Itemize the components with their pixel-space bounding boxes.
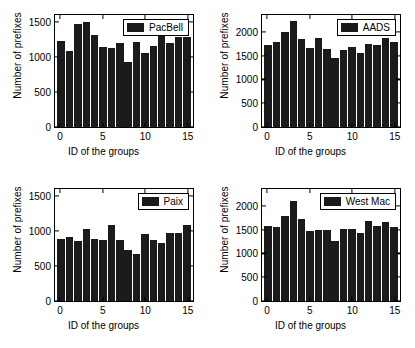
y-tick-mark	[55, 91, 59, 92]
bar	[99, 47, 107, 127]
bar	[298, 219, 306, 301]
bar	[91, 35, 99, 127]
x-axis-label: ID of the groups	[0, 146, 207, 157]
y-tick-label: 1000	[236, 248, 258, 259]
y-tick-mark	[55, 21, 59, 22]
bar	[166, 43, 174, 127]
bar	[331, 241, 339, 301]
y-tick-label: 1000	[236, 74, 258, 85]
x-tick-mark	[145, 15, 146, 19]
y-tick-label: 1500	[29, 191, 51, 202]
y-tick-mark	[396, 277, 400, 278]
y-tick-mark	[262, 79, 266, 80]
y-tick-mark	[396, 126, 400, 127]
bar	[273, 42, 281, 127]
bar	[166, 233, 174, 301]
y-tick-mark	[396, 253, 400, 254]
bar	[74, 24, 82, 127]
x-tick-label: 5	[307, 131, 313, 142]
y-tick-mark	[189, 300, 193, 301]
x-tick-mark	[145, 123, 146, 127]
bar	[306, 231, 314, 301]
legend: West Mac	[320, 193, 396, 210]
y-tick-mark	[396, 55, 400, 56]
x-axis-label: ID of the groups	[207, 146, 414, 157]
plot-area: West Mac 0500100015002000051015	[261, 188, 401, 302]
y-tick-mark	[262, 277, 266, 278]
x-tick-mark	[102, 123, 103, 127]
y-axis-label: Number of prefixes	[12, 175, 23, 285]
y-tick-mark	[55, 126, 59, 127]
x-tick-mark	[394, 123, 395, 127]
bar	[323, 49, 331, 127]
y-tick-label: 0	[45, 296, 51, 307]
bar	[183, 225, 191, 301]
bar	[83, 229, 91, 301]
y-tick-mark	[262, 103, 266, 104]
x-tick-label: 5	[100, 305, 106, 316]
y-tick-mark	[396, 103, 400, 104]
bar	[315, 38, 323, 127]
y-tick-mark	[262, 300, 266, 301]
x-tick-mark	[309, 297, 310, 301]
y-tick-mark	[55, 230, 59, 231]
x-tick-mark	[187, 15, 188, 19]
y-tick-mark	[189, 56, 193, 57]
bar	[365, 221, 373, 301]
legend-label: West Mac	[346, 196, 390, 207]
y-tick-label: 500	[34, 261, 51, 272]
bar	[340, 229, 348, 301]
bar	[124, 250, 132, 301]
y-tick-mark	[55, 265, 59, 266]
bar	[66, 51, 74, 127]
legend: AADS	[337, 19, 396, 36]
x-axis-label: ID of the groups	[207, 320, 414, 331]
plot-area: AADS 0500100015002000051015	[261, 14, 401, 128]
y-tick-label: 500	[241, 272, 258, 283]
y-tick-mark	[396, 31, 400, 32]
y-tick-label: 2000	[236, 200, 258, 211]
y-tick-mark	[189, 21, 193, 22]
y-tick-mark	[396, 229, 400, 230]
bar	[340, 50, 348, 127]
x-tick-label: 10	[347, 131, 358, 142]
y-tick-label: 1500	[236, 224, 258, 235]
bar	[116, 43, 124, 127]
bar	[91, 239, 99, 301]
legend-label: AADS	[363, 22, 390, 33]
y-tick-mark	[262, 229, 266, 230]
bar	[175, 233, 183, 301]
y-tick-label: 1000	[29, 226, 51, 237]
x-tick-label: 0	[57, 131, 63, 142]
y-tick-mark	[262, 253, 266, 254]
x-tick-mark	[267, 123, 268, 127]
bar	[357, 53, 365, 127]
y-tick-mark	[262, 205, 266, 206]
x-tick-mark	[267, 15, 268, 19]
y-tick-label: 0	[252, 296, 258, 307]
bar	[133, 42, 141, 127]
x-tick-label: 0	[264, 305, 270, 316]
legend-swatch-icon	[341, 23, 358, 32]
bar	[158, 243, 166, 301]
bar	[183, 37, 191, 127]
bar	[315, 230, 323, 301]
y-tick-label: 2000	[236, 26, 258, 37]
bar	[290, 201, 298, 301]
y-tick-label: 0	[45, 122, 51, 133]
bar	[273, 227, 281, 301]
plot-area: PacBell 050010001500051015	[54, 14, 194, 128]
x-tick-mark	[60, 123, 61, 127]
legend-swatch-icon	[324, 197, 341, 206]
y-axis-label: Number of prefixes	[12, 1, 23, 111]
legend-label: PacBell	[149, 22, 183, 33]
x-tick-mark	[187, 297, 188, 301]
x-tick-mark	[102, 189, 103, 193]
x-tick-mark	[352, 189, 353, 193]
y-tick-mark	[262, 31, 266, 32]
y-tick-mark	[189, 126, 193, 127]
bar	[373, 226, 381, 301]
bar	[323, 230, 331, 301]
y-tick-mark	[55, 56, 59, 57]
legend-swatch-icon	[142, 197, 159, 206]
